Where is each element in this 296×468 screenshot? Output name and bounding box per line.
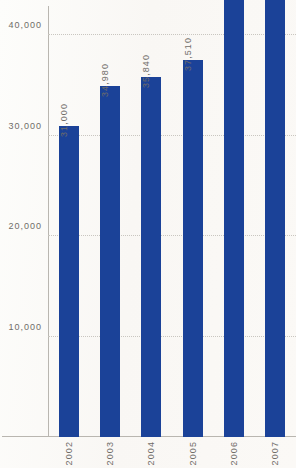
bar-value-label: 35,840 <box>141 54 151 88</box>
x-axis-tick-labels: 200220032004200520062007 <box>48 437 296 468</box>
bar-slot: 35,840 <box>131 0 172 437</box>
bar-chart: 10,00020,00030,00040,000 31,00034,98035,… <box>0 0 296 468</box>
x-label-slot: 2002 <box>48 437 89 468</box>
bar-series: 31,00034,98035,84037,510 <box>48 0 296 437</box>
y-tick-label: 10,000 <box>8 322 42 332</box>
x-label-slot: 2007 <box>255 437 296 468</box>
bar-value-label: 31,000 <box>59 103 69 137</box>
x-label-slot: 2003 <box>89 437 130 468</box>
bar <box>265 0 285 437</box>
x-label-slot: 2006 <box>213 437 254 468</box>
bar-value-label: 37,510 <box>183 37 193 71</box>
x-tick-label: 2005 <box>188 441 198 465</box>
bar: 31,000 <box>59 126 79 437</box>
x-label-slot: 2005 <box>172 437 213 468</box>
x-tick-label: 2003 <box>105 441 115 465</box>
x-tick-label: 2002 <box>64 441 74 465</box>
bar-slot <box>213 0 254 437</box>
x-label-slot: 2004 <box>131 437 172 468</box>
bar <box>224 0 244 437</box>
bar: 35,840 <box>141 77 161 437</box>
bar: 34,980 <box>100 86 120 437</box>
x-tick-label: 2004 <box>146 441 156 465</box>
y-tick-label: 20,000 <box>8 221 42 231</box>
x-tick-label: 2006 <box>229 441 239 465</box>
bar-slot <box>255 0 296 437</box>
y-tick-label: 40,000 <box>8 20 42 30</box>
x-tick-label: 2007 <box>270 441 280 465</box>
bar-slot: 31,000 <box>48 0 89 437</box>
bar-slot: 37,510 <box>172 0 213 437</box>
y-tick-label: 30,000 <box>8 121 42 131</box>
plot-area: 10,00020,00030,00040,000 31,00034,98035,… <box>48 0 296 437</box>
bar: 37,510 <box>183 60 203 437</box>
bar-slot: 34,980 <box>89 0 130 437</box>
bar-value-label: 34,980 <box>100 63 110 97</box>
